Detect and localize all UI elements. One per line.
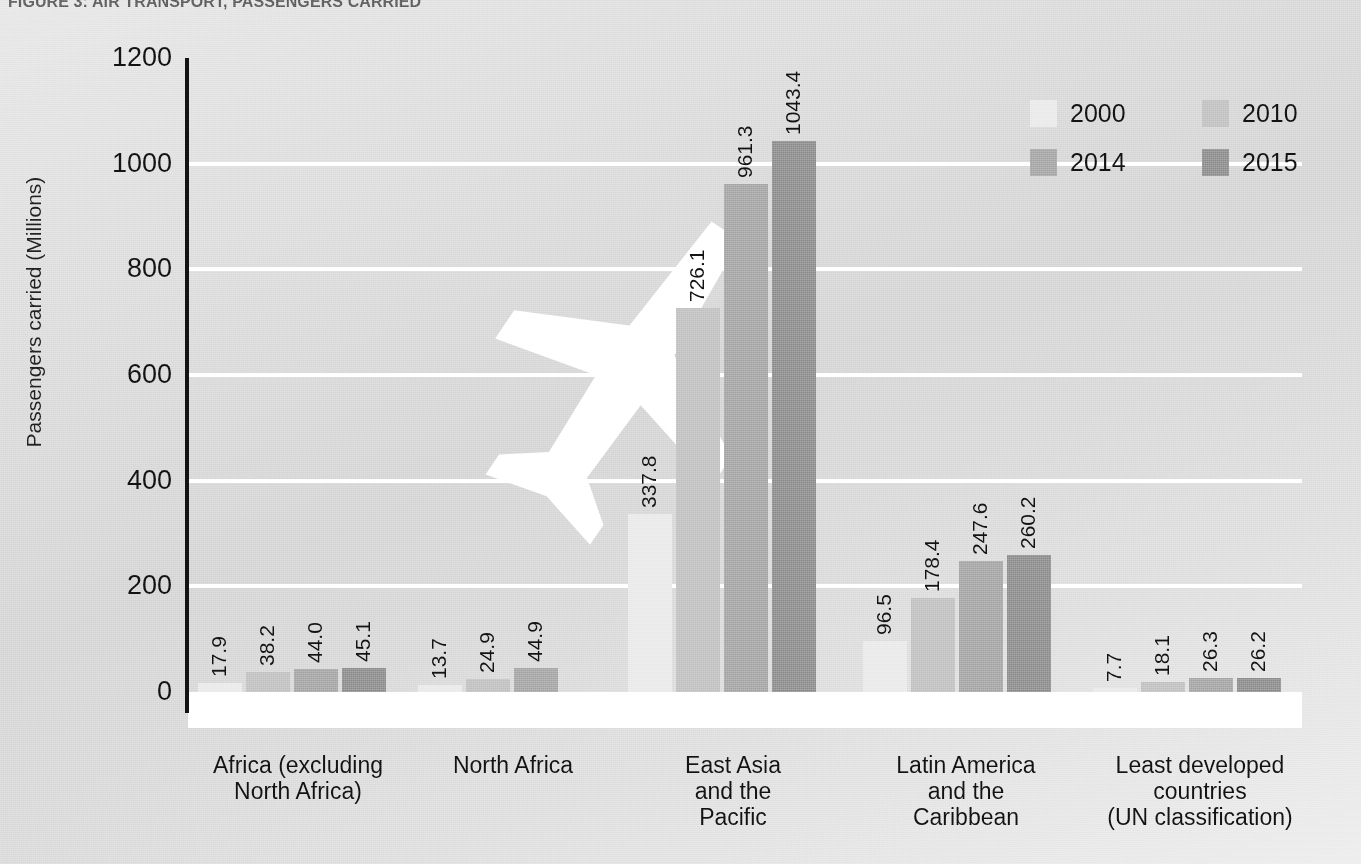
bar-value-label: 26.3 xyxy=(1199,631,1220,672)
bar-value-label: 337.8 xyxy=(638,455,659,508)
legend-item[interactable]: 2010 xyxy=(1202,100,1330,127)
bar-value-label: 7.7 xyxy=(1103,653,1124,682)
bar-rect xyxy=(342,668,386,692)
bar-rect xyxy=(418,685,462,692)
x-axis-category-label: East Asiaand thePacific xyxy=(608,752,858,831)
bar-value-label: 38.2 xyxy=(256,625,277,666)
y-axis-tick-label: 0 xyxy=(52,678,172,705)
figure-page: FIGURE 3: AIR TRANSPORT, PASSENGERS CARR… xyxy=(0,0,1361,864)
bar-rect xyxy=(246,672,290,692)
bar-rect xyxy=(294,669,338,692)
x-axis-category-label: Africa (excludingNorth Africa) xyxy=(173,752,423,804)
bar-rect xyxy=(1189,678,1233,692)
legend-item[interactable]: 2015 xyxy=(1202,149,1330,176)
x-axis-category-label: North Africa xyxy=(388,752,638,778)
bar-rect xyxy=(628,514,672,692)
legend: 2000201020142015 xyxy=(1030,100,1330,176)
y-axis-line xyxy=(185,58,189,713)
y-axis-tick-label: 1000 xyxy=(52,150,172,177)
bar-rect xyxy=(514,668,558,692)
legend-item[interactable]: 2000 xyxy=(1030,100,1158,127)
bar-value-label: 17.9 xyxy=(208,636,229,677)
y-axis-tick-label: 800 xyxy=(52,255,172,282)
legend-label: 2010 xyxy=(1242,101,1298,126)
bar-rect xyxy=(466,679,510,692)
bar-rect xyxy=(198,683,242,692)
bar-rect xyxy=(772,141,816,692)
bar-rect xyxy=(1141,682,1185,692)
legend-label: 2015 xyxy=(1242,150,1298,175)
figure-title: FIGURE 3: AIR TRANSPORT, PASSENGERS CARR… xyxy=(8,0,421,11)
bar-value-label: 726.1 xyxy=(686,250,707,303)
legend-swatch xyxy=(1202,100,1229,127)
bar-value-label: 13.7 xyxy=(428,638,449,679)
bar-value-label: 178.4 xyxy=(921,539,942,592)
legend-swatch xyxy=(1030,100,1057,127)
bar-value-label: 260.2 xyxy=(1017,496,1038,549)
legend-label: 2014 xyxy=(1070,150,1126,175)
y-axis-tick-label: 600 xyxy=(52,361,172,388)
y-axis-tick-label: 1200 xyxy=(52,44,172,71)
bar-rect xyxy=(1237,678,1281,692)
bar-value-label: 44.9 xyxy=(524,621,545,662)
bar-value-label: 26.2 xyxy=(1247,631,1268,672)
y-axis-title: Passengers carried (Millions) xyxy=(22,112,46,512)
y-axis-tick-label: 400 xyxy=(52,467,172,494)
bar-value-label: 45.1 xyxy=(352,621,373,662)
bar-value-label: 961.3 xyxy=(734,126,755,179)
bar-value-label: 247.6 xyxy=(969,503,990,556)
bar-rect xyxy=(863,641,907,692)
zero-baseline-band xyxy=(188,692,1302,728)
bar-rect xyxy=(676,308,720,692)
bar-value-label: 1043.4 xyxy=(782,71,803,135)
legend-swatch xyxy=(1202,149,1229,176)
bar-rect xyxy=(911,598,955,692)
x-axis-category-label: Latin Americaand theCaribbean xyxy=(841,752,1091,831)
x-axis-category-label: Least developedcountries(UN classificati… xyxy=(1075,752,1325,831)
bar-rect xyxy=(724,184,768,692)
bar-value-label: 18.1 xyxy=(1151,636,1172,677)
bar-value-label: 24.9 xyxy=(476,632,497,673)
bar-rect xyxy=(1007,555,1051,692)
bar-rect xyxy=(959,561,1003,692)
legend-item[interactable]: 2014 xyxy=(1030,149,1158,176)
legend-swatch xyxy=(1030,149,1057,176)
y-axis-tick-label: 200 xyxy=(52,572,172,599)
legend-label: 2000 xyxy=(1070,101,1126,126)
bar-value-label: 44.0 xyxy=(304,622,325,663)
bar-value-label: 96.5 xyxy=(873,594,894,635)
